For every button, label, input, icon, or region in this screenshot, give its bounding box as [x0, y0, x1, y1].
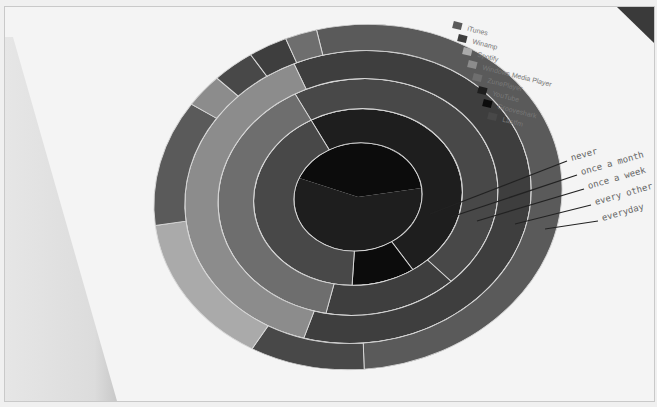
- photo-frame: iTunesWinampSpotifyWindows Media PlayerZ…: [4, 6, 655, 402]
- radial-chart: [5, 7, 654, 401]
